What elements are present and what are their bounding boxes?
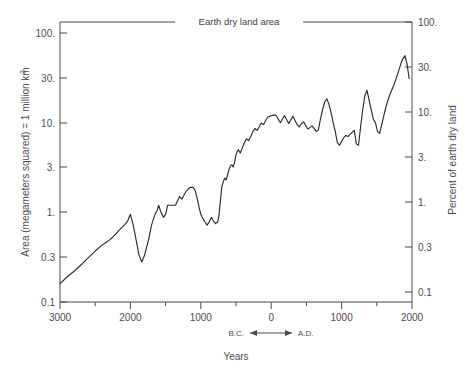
x-axis-title: Years: [223, 351, 248, 362]
y-left-axis-title-text: Area (megameters squared) = 1 million km: [20, 67, 31, 256]
earth-dry-land-area-chart: Earth dry land area 100. 30. 10. 3. 1. 0…: [0, 0, 476, 374]
x-tick-label: 2000: [119, 312, 142, 323]
x-tick-label: 1000: [330, 312, 353, 323]
y-left-axis-title: Area (megameters squared) = 1 million km…: [19, 67, 31, 256]
arrow-right-head-icon: [285, 330, 292, 336]
y-left-tick-label: 0.1: [41, 297, 55, 308]
era-label-ad: A.D.: [298, 329, 314, 338]
x-tick-labels: 3000 2000 1000 0 1000 2000: [49, 312, 424, 323]
y-left-tick-label: 1.: [47, 207, 55, 218]
arrow-left-head-icon: [250, 330, 257, 336]
x-tick-label: 1000: [190, 312, 213, 323]
x-tick-label: 0: [268, 312, 274, 323]
y-left-tick-label: 10.: [41, 118, 55, 129]
y-right-ticks: [405, 22, 412, 292]
y-left-tick-label: 0.3: [41, 252, 55, 263]
x-tick-label: 2000: [401, 312, 424, 323]
y-right-tick-label: 0.1: [418, 287, 432, 298]
y-left-tick-labels: 100. 30. 10. 3. 1. 0.3 0.1: [36, 28, 56, 308]
era-label-bc: B.C.: [228, 329, 244, 338]
y-left-axis-title-superscript: 2: [19, 70, 26, 74]
chart-title: Earth dry land area: [199, 16, 281, 27]
era-marker: B.C. A.D.: [228, 329, 313, 338]
y-right-tick-label: 30.: [418, 62, 432, 73]
chart-figure: Earth dry land area 100. 30. 10. 3. 1. 0…: [0, 0, 476, 374]
x-tick-label: 3000: [49, 312, 72, 323]
y-left-tick-label: 100.: [36, 28, 55, 39]
y-left-tick-label: 30.: [41, 73, 55, 84]
x-ticks: [60, 302, 412, 309]
y-right-tick-label: 100.: [418, 17, 437, 28]
plot-frame: [60, 22, 412, 302]
y-right-axis-title: Percent of earth dry land: [447, 105, 458, 215]
data-series-line: [60, 56, 409, 284]
y-right-tick-label: 1.: [418, 197, 426, 208]
y-right-tick-label: 3.: [418, 152, 426, 163]
y-right-tick-label: 0.3: [418, 242, 432, 253]
y-left-ticks: [60, 33, 67, 302]
y-right-tick-labels: 100. 30. 10. 3. 1. 0.3 0.1: [418, 17, 437, 298]
y-left-tick-label: 3.: [47, 162, 55, 173]
y-right-tick-label: 10.: [418, 107, 432, 118]
